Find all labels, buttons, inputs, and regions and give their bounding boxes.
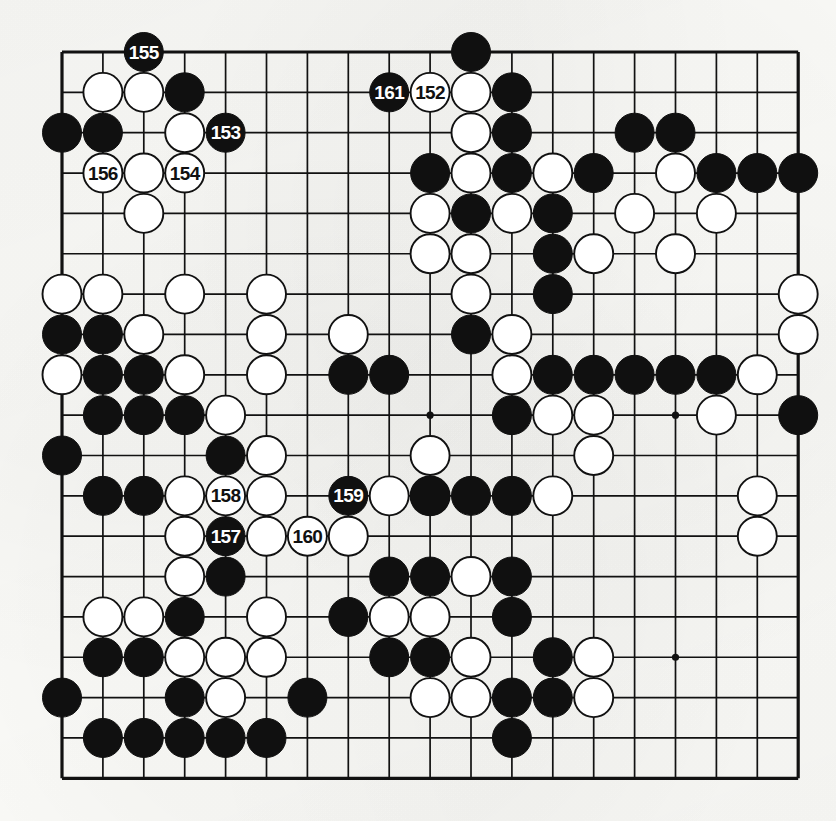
black-stone[interactable] (83, 355, 122, 394)
white-stone[interactable] (533, 396, 572, 435)
black-stone[interactable] (411, 557, 450, 596)
black-stone[interactable] (452, 194, 491, 233)
black-stone[interactable] (411, 476, 450, 515)
black-stone[interactable] (288, 678, 327, 717)
white-stone[interactable] (206, 396, 245, 435)
white-stone[interactable] (492, 355, 531, 394)
white-stone[interactable] (43, 275, 82, 314)
black-stone[interactable] (124, 355, 163, 394)
black-stone[interactable] (656, 113, 695, 152)
black-stone[interactable] (83, 315, 122, 354)
white-stone[interactable] (124, 315, 163, 354)
black-stone[interactable] (492, 597, 531, 636)
white-stone[interactable] (656, 154, 695, 193)
white-stone[interactable] (697, 194, 736, 233)
black-stone[interactable] (165, 597, 204, 636)
black-stone[interactable] (329, 597, 368, 636)
black-stone[interactable] (165, 73, 204, 112)
white-stone[interactable] (574, 638, 613, 677)
white-stone[interactable] (124, 194, 163, 233)
black-stone[interactable] (43, 678, 82, 717)
black-stone[interactable] (452, 315, 491, 354)
white-stone[interactable] (329, 315, 368, 354)
white-stone[interactable] (370, 476, 409, 515)
white-stone[interactable] (165, 275, 204, 314)
white-stone[interactable] (492, 194, 531, 233)
white-stone[interactable] (452, 678, 491, 717)
white-stone[interactable] (247, 597, 286, 636)
white-stone[interactable] (738, 517, 777, 556)
black-stone[interactable] (83, 476, 122, 515)
black-stone[interactable] (574, 154, 613, 193)
white-stone[interactable] (452, 113, 491, 152)
black-stone[interactable] (492, 396, 531, 435)
black-stone[interactable] (533, 194, 572, 233)
black-stone[interactable] (574, 355, 613, 394)
white-stone[interactable] (370, 597, 409, 636)
black-stone[interactable] (533, 678, 572, 717)
black-stone[interactable] (492, 154, 531, 193)
black-stone[interactable] (779, 154, 818, 193)
white-stone[interactable] (533, 476, 572, 515)
go-board-container[interactable]: 152153154155156157158159160161 (0, 0, 836, 821)
white-stone[interactable] (411, 234, 450, 273)
black-stone[interactable] (124, 718, 163, 757)
black-stone[interactable] (738, 154, 777, 193)
black-stone[interactable] (615, 355, 654, 394)
black-stone[interactable] (370, 638, 409, 677)
black-stone[interactable] (206, 436, 245, 475)
black-stone[interactable] (124, 638, 163, 677)
black-stone[interactable] (329, 355, 368, 394)
white-stone[interactable] (452, 275, 491, 314)
black-stone[interactable] (492, 678, 531, 717)
black-stone[interactable] (370, 355, 409, 394)
white-stone[interactable] (329, 517, 368, 556)
black-stone[interactable] (247, 718, 286, 757)
white-stone[interactable] (165, 557, 204, 596)
black-stone[interactable] (533, 275, 572, 314)
white-stone[interactable] (738, 355, 777, 394)
black-stone[interactable] (492, 113, 531, 152)
white-stone[interactable] (656, 234, 695, 273)
black-stone[interactable] (452, 476, 491, 515)
white-stone[interactable] (574, 396, 613, 435)
white-stone[interactable] (574, 678, 613, 717)
black-stone[interactable] (492, 476, 531, 515)
white-stone[interactable] (411, 678, 450, 717)
black-stone[interactable] (370, 557, 409, 596)
black-stone[interactable] (206, 718, 245, 757)
white-stone[interactable] (247, 355, 286, 394)
black-stone[interactable] (533, 355, 572, 394)
black-stone[interactable] (656, 355, 695, 394)
white-stone[interactable] (247, 436, 286, 475)
black-stone[interactable] (411, 638, 450, 677)
white-stone[interactable] (124, 154, 163, 193)
white-stone[interactable] (533, 154, 572, 193)
black-stone[interactable] (411, 154, 450, 193)
white-stone[interactable] (615, 194, 654, 233)
black-stone[interactable] (83, 638, 122, 677)
black-stone[interactable] (206, 557, 245, 596)
white-stone[interactable] (452, 557, 491, 596)
black-stone[interactable] (43, 113, 82, 152)
black-stone[interactable] (779, 396, 818, 435)
white-stone[interactable] (247, 638, 286, 677)
white-stone[interactable] (779, 315, 818, 354)
white-stone[interactable] (452, 154, 491, 193)
white-stone[interactable] (124, 597, 163, 636)
white-stone[interactable] (411, 194, 450, 233)
go-board-svg[interactable]: 152153154155156157158159160161 (0, 0, 836, 821)
white-stone[interactable] (574, 234, 613, 273)
black-stone[interactable] (124, 476, 163, 515)
white-stone[interactable] (247, 476, 286, 515)
black-stone[interactable] (615, 113, 654, 152)
white-stone[interactable] (247, 275, 286, 314)
white-stone[interactable] (574, 436, 613, 475)
white-stone[interactable] (83, 73, 122, 112)
white-stone[interactable] (165, 113, 204, 152)
white-stone[interactable] (43, 355, 82, 394)
white-stone[interactable] (206, 678, 245, 717)
white-stone[interactable] (452, 234, 491, 273)
black-stone[interactable] (492, 557, 531, 596)
black-stone[interactable] (697, 355, 736, 394)
